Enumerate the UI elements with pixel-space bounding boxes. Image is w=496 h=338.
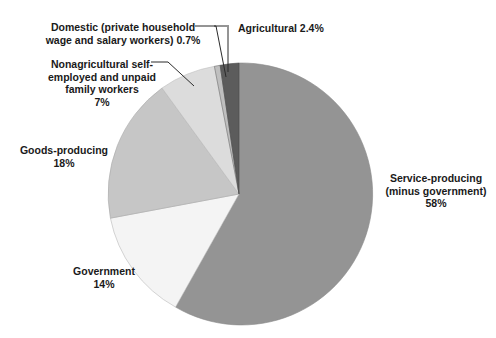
slice-label-domestic: Domestic (private household wage and sal… bbox=[28, 21, 218, 46]
slice-label-nonagricultural: Nonagricultural self- employed and unpai… bbox=[22, 58, 182, 108]
slice-label-agricultural: Agricultural 2.4% bbox=[238, 22, 362, 35]
slice-label-goods-producing: Goods-producing 18% bbox=[8, 144, 120, 169]
pie-chart-figure: Domestic (private household wage and sal… bbox=[0, 0, 496, 338]
slice-label-government: Government 14% bbox=[48, 265, 160, 290]
slice-label-service-producing: Service-producing (minus government) 58% bbox=[378, 172, 494, 210]
